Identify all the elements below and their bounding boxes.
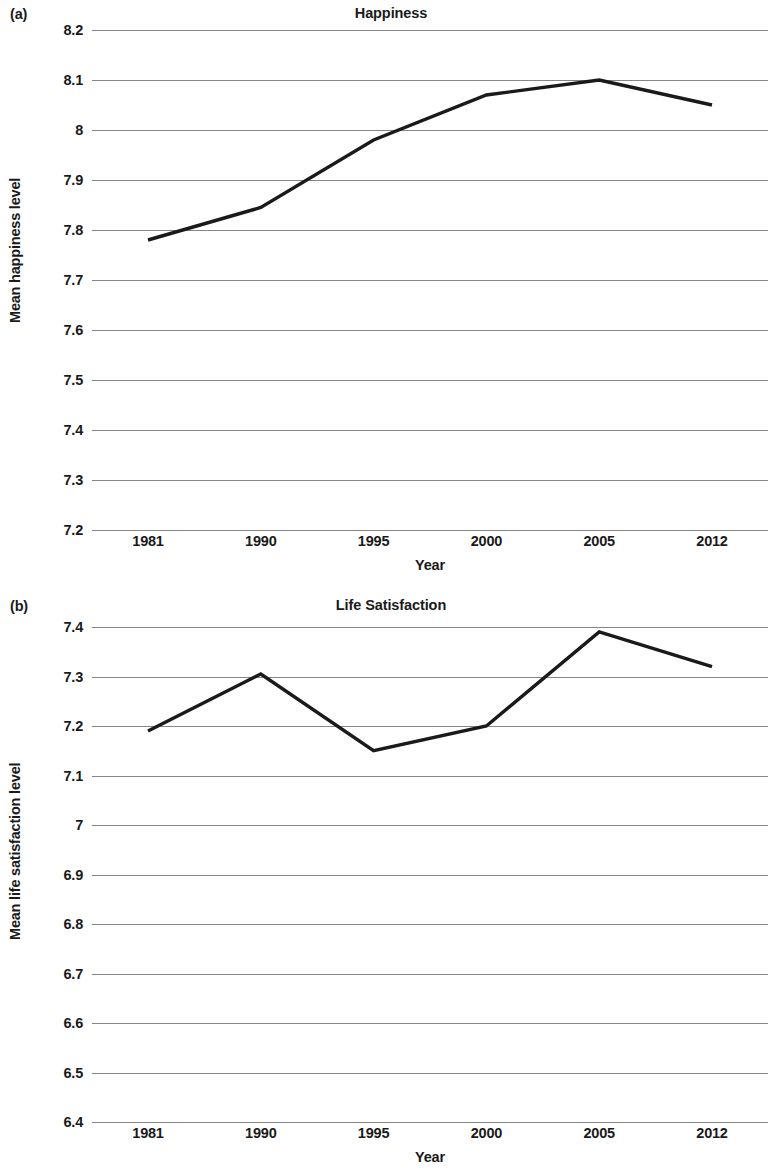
- x-axis-ticks-life-satisfaction: 198119901995200020052012: [92, 1125, 768, 1147]
- y-axis-tick-label: 7.7: [63, 272, 83, 288]
- y-axis-label-life-satisfaction: Mean life satisfaction level: [7, 910, 23, 940]
- y-axis-tick-label: 8.2: [63, 22, 83, 38]
- chart-panel-life-satisfaction: (b) Life Satisfaction Mean life satisfac…: [0, 592, 782, 1174]
- y-axis-tick-label: 6.5: [63, 1065, 83, 1081]
- y-axis-tick-label: 6.4: [63, 1114, 83, 1130]
- x-axis-label-life-satisfaction: Year: [92, 1149, 768, 1165]
- x-axis-tick-label: 2000: [471, 1125, 502, 1141]
- y-axis-tick-label: 7.4: [63, 619, 83, 635]
- x-axis-tick-label: 2000: [471, 533, 502, 549]
- series-line-happiness: [92, 30, 768, 530]
- y-axis-tick-label: 7.3: [63, 669, 83, 685]
- y-axis-tick-label: 7.8: [63, 222, 83, 238]
- y-axis-tick-label: 7.3: [63, 472, 83, 488]
- gridline: [92, 1122, 768, 1123]
- x-axis-tick-label: 1995: [358, 1125, 389, 1141]
- x-axis-tick-label: 1981: [132, 533, 163, 549]
- x-axis-tick-label: 2005: [583, 533, 614, 549]
- x-axis-ticks-happiness: 198119901995200020052012: [92, 533, 768, 555]
- gridline: [92, 530, 768, 531]
- x-axis-tick-label: 2012: [696, 533, 727, 549]
- series-line-life-satisfaction: [92, 627, 768, 1122]
- x-axis-tick-label: 2005: [583, 1125, 614, 1141]
- y-axis-tick-label: 8.1: [63, 72, 83, 88]
- y-axis-tick-label: 7.4: [63, 422, 83, 438]
- figure-two-panel-line-charts: (a) Happiness Mean happiness level 8.28.…: [0, 0, 782, 1174]
- y-axis-tick-label: 7.2: [63, 718, 83, 734]
- y-axis-tick-label: 6.6: [63, 1015, 83, 1031]
- y-axis-tick-label: 6.7: [63, 966, 83, 982]
- y-axis-tick-label: 8: [75, 122, 83, 138]
- plot-area-life-satisfaction: 7.47.37.27.176.96.86.76.66.56.4: [92, 627, 768, 1122]
- data-line: [148, 80, 712, 240]
- y-axis-tick-label: 6.8: [63, 916, 83, 932]
- x-axis-tick-label: 1995: [358, 533, 389, 549]
- x-axis-tick-label: 1990: [245, 1125, 276, 1141]
- y-axis-tick-label: 7.6: [63, 322, 83, 338]
- y-axis-label-happiness: Mean happiness level: [7, 293, 23, 323]
- x-axis-tick-label: 2012: [696, 1125, 727, 1141]
- y-axis-tick-label: 7.2: [63, 522, 83, 538]
- plot-area-happiness: 8.28.187.97.87.77.67.57.47.37.2: [92, 30, 768, 530]
- chart-title-life-satisfaction: Life Satisfaction: [0, 597, 782, 613]
- y-axis-tick-label: 7.1: [63, 768, 83, 784]
- data-line: [148, 632, 712, 751]
- y-axis-tick-label: 7: [75, 817, 83, 833]
- y-axis-tick-label: 7.9: [63, 172, 83, 188]
- chart-title-happiness: Happiness: [0, 5, 782, 21]
- x-axis-label-happiness: Year: [92, 557, 768, 573]
- x-axis-tick-label: 1990: [245, 533, 276, 549]
- x-axis-tick-label: 1981: [132, 1125, 163, 1141]
- y-axis-tick-label: 6.9: [63, 867, 83, 883]
- y-axis-tick-label: 7.5: [63, 372, 83, 388]
- chart-panel-happiness: (a) Happiness Mean happiness level 8.28.…: [0, 0, 782, 590]
